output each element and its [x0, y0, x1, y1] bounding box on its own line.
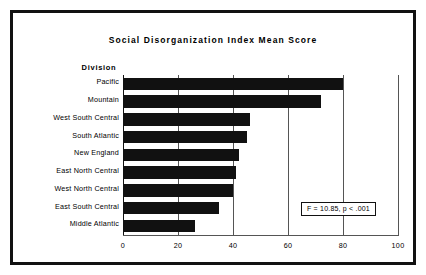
category-label: West South Central — [53, 113, 119, 122]
category-label: New England — [74, 148, 119, 157]
bar-row: Middle Atlantic — [123, 217, 398, 235]
bar-row: Pacific — [123, 75, 398, 93]
x-axis-tick-label: 40 — [229, 241, 238, 250]
chart-title: Social Disorganization Index Mean Score — [13, 35, 413, 45]
x-axis-tick-label: 20 — [174, 241, 183, 250]
category-label: West North Central — [54, 184, 119, 193]
x-axis-tick-label: 100 — [392, 241, 405, 250]
statistic-annotation: F = 10.85, p < .001 — [301, 202, 376, 216]
bar — [123, 220, 195, 232]
gridline — [398, 75, 399, 235]
bar — [123, 149, 239, 161]
x-axis-tick-label: 60 — [284, 241, 293, 250]
bar — [123, 184, 233, 196]
bar — [123, 78, 343, 90]
bar-row: New England — [123, 146, 398, 164]
chart-frame: Social Disorganization Index Mean Score … — [10, 10, 416, 265]
bar — [123, 202, 219, 214]
x-axis-tick-label: 0 — [121, 241, 125, 250]
bar-row: West South Central — [123, 111, 398, 129]
bar-row: Mountain — [123, 93, 398, 111]
category-axis-header: Division — [73, 63, 125, 72]
bar-row: South Atlantic — [123, 128, 398, 146]
x-axis-baseline — [123, 235, 399, 236]
category-label: Middle Atlantic — [70, 219, 119, 228]
bar-row: West North Central — [123, 182, 398, 200]
category-label: East South Central — [55, 202, 119, 211]
bar — [123, 166, 236, 178]
category-label: South Atlantic — [72, 131, 119, 140]
bar-row: East North Central — [123, 164, 398, 182]
bar — [123, 95, 321, 107]
bar — [123, 131, 247, 143]
category-label: Mountain — [88, 95, 119, 104]
category-label: Pacific — [96, 77, 119, 86]
bar — [123, 113, 250, 125]
x-axis-tick-label: 80 — [339, 241, 348, 250]
category-label: East North Central — [56, 166, 119, 175]
